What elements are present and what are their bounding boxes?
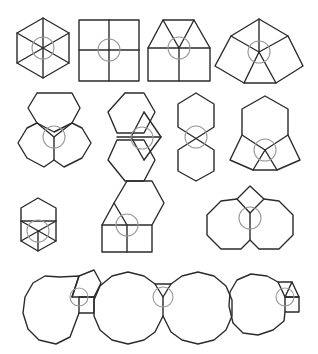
polygon-edge [94,272,163,344]
vertex-figure-4-6-12 [23,270,101,344]
vertex-figure-3-4-6-4 [230,96,300,170]
polygon-edge [108,93,155,133]
vertex-figure-3-3-3-3-6 [21,198,56,251]
polygon-edge [108,140,155,181]
polygon-edge [79,297,94,313]
diagram-svg [0,0,318,354]
polygon-edge [148,20,210,48]
vertex-circle [131,127,153,149]
vertex-figure-3-12-12 [94,272,232,344]
polygon-edge [285,297,299,312]
vertex-figure-3-3-3-4-4 [148,20,210,81]
polygon-edge [285,282,292,297]
vertex-figure-3-6-3-6 [108,93,161,181]
vertex-figure-6-6-6 [18,93,91,167]
polygon-edge [231,36,259,52]
vertex-figure-4-4-4-4 [79,20,139,81]
tiling-vertex-diagram [0,0,318,354]
vertex-figure-3-4-3-12 [229,274,299,335]
polygon-edge [163,272,232,344]
vertex-figure-4-8-8 [207,186,293,249]
vertex-circle [185,126,207,148]
vertex-figure-3-4-4-6 [102,181,164,252]
polygon-edge [23,276,79,344]
polygon-edge [178,93,214,181]
vertex-figure-3-3-3-3-3-3 [17,18,69,78]
polygon-edge [102,181,164,252]
vertex-figure-3-3-4-3-4 [215,19,303,83]
polygon-edge [131,112,144,160]
polygon-edge [229,274,285,335]
polygon-edge [259,36,288,52]
polygon-edge [237,186,264,213]
polygon-edge [242,96,288,150]
vertex-figure-3-3-6-6 [178,93,214,181]
polygon-edge [155,284,171,297]
